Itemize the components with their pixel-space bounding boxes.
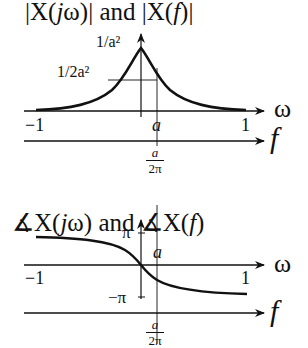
f-tick-a-over-2pi-bottom: a 2π [146, 318, 164, 347]
omega-tick-a-top: a [152, 116, 161, 134]
f-axis-label-bottom: f [270, 296, 278, 326]
frac-den: 2π [148, 334, 161, 347]
angle-icon: ∡ [12, 208, 34, 237]
f-tick-a-over-2pi-top: a 2π [146, 146, 164, 175]
title-text: )| and |X( [80, 0, 173, 25]
title-text: )| [180, 0, 193, 25]
title-text: X( [163, 209, 189, 236]
neg-pi-label: −π [108, 289, 126, 306]
title-text: |X( [25, 0, 56, 25]
phase-title: ∡X(jω) and ∡X(f) [12, 208, 204, 237]
omega-axis-label-top: ω [274, 96, 291, 122]
omega-tick-1-top: 1 [241, 116, 250, 134]
title-text: X( [34, 209, 60, 236]
title-omega: ω [67, 209, 83, 236]
frac-num: a [152, 146, 159, 159]
magnitude-plot [24, 34, 264, 146]
omega-axis-label-bottom: ω [274, 251, 291, 277]
peak-label: 1/a² [96, 34, 120, 50]
half-label: 1/2a² [57, 64, 89, 80]
title-text: ) [196, 209, 204, 236]
omega-tick-neg1-bottom: −1 [25, 269, 44, 287]
frac-den: 2π [148, 162, 161, 175]
magnitude-title: |X(jω)| and |X(f)| [25, 0, 193, 26]
title-text: ) and [84, 209, 141, 236]
pi-label: π [122, 224, 131, 241]
a-label-bottom: a [153, 243, 162, 261]
omega-tick-1-bottom: 1 [241, 269, 250, 287]
f-axis-label-top: f [270, 123, 278, 153]
omega-tick-neg1-top: −1 [25, 116, 44, 134]
angle-icon: ∡ [141, 208, 163, 237]
frac-num: a [152, 318, 159, 331]
title-omega: ω [63, 0, 79, 25]
